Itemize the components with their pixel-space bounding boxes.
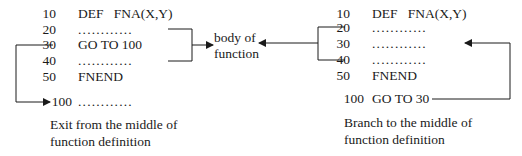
left-caption-line2: function definition <box>50 133 151 150</box>
code-dots: ............ <box>78 94 133 110</box>
line-number: 100 <box>44 94 72 110</box>
code-text: FNEND <box>372 68 417 84</box>
code-dots: ............ <box>372 20 427 36</box>
code-dots: ............ <box>78 22 133 38</box>
line-number: 40 <box>28 53 56 69</box>
line-number: 20 <box>322 20 350 36</box>
label-line2: function <box>214 45 259 62</box>
line-number: 30 <box>28 37 56 53</box>
code-text: GO TO 100 <box>78 37 142 53</box>
code-text: FNEND <box>78 69 123 85</box>
line-number: 20 <box>28 22 56 38</box>
left-body-bracket <box>168 29 192 61</box>
code-dots: ............ <box>372 36 427 52</box>
line-number: 10 <box>28 6 56 22</box>
right-caption-line2: function definition <box>344 131 445 148</box>
branch-arrow <box>432 43 510 99</box>
code-dots: ............ <box>372 52 427 68</box>
line-number: 50 <box>322 68 350 84</box>
code-dots: ............ <box>78 53 133 69</box>
code-text: DEF FNA(X,Y) <box>78 6 173 22</box>
label-line1: body of <box>214 29 256 46</box>
line-number: 40 <box>322 52 350 68</box>
right-caption-line1: Branch to the middle of <box>344 114 472 131</box>
line-number: 50 <box>28 69 56 85</box>
left-caption-line1: Exit from the middle of <box>50 116 177 133</box>
line-number: 30 <box>322 36 350 52</box>
line-number: 100 <box>334 91 364 107</box>
code-text: GO TO 30 <box>372 91 429 107</box>
